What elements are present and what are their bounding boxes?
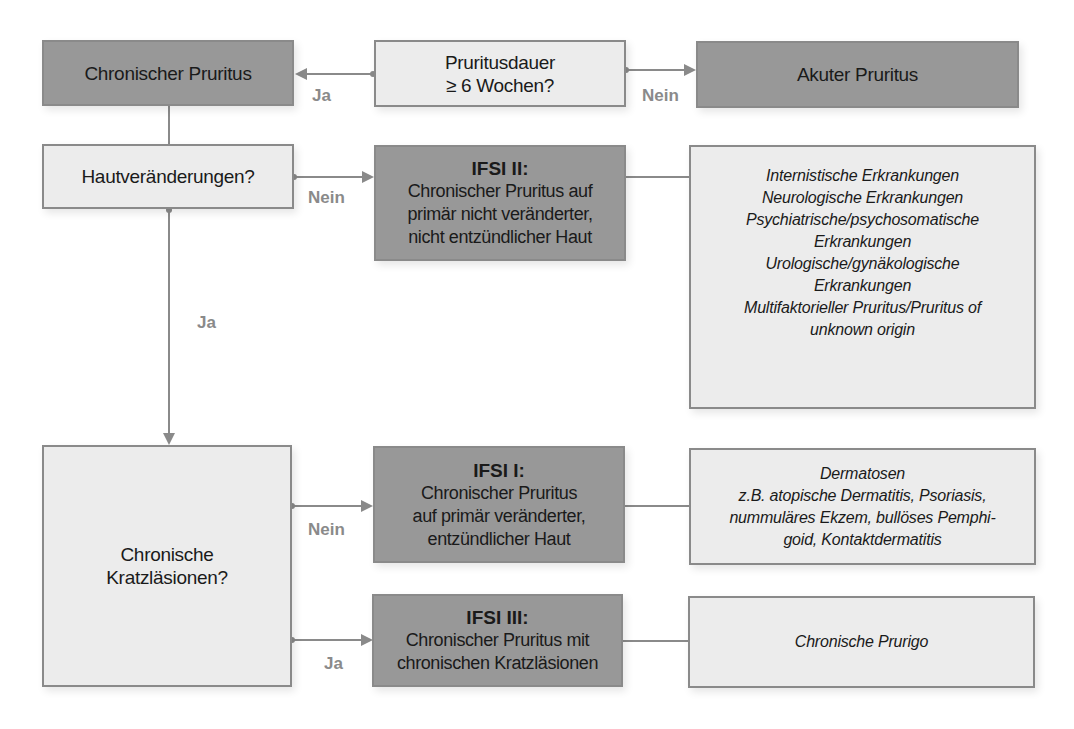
node-line: Chronische [120,543,213,566]
node-line: Chronischer Pruritus mit [406,629,589,652]
node-ifsi1-causes: Dermatosen z.B. atopische Dermatitis, Ps… [689,448,1036,565]
connector-scratch-ifsi1 [292,505,361,507]
node-line: Psychiatrische/psychosomatische [746,209,979,231]
node-line: Neurologische Erkrankungen [762,187,963,209]
node-label: Hautveränderungen? [81,165,254,188]
edge-label-nein: Nein [308,520,345,540]
node-chronic-pruritus: Chronischer Pruritus [42,40,294,106]
node-title: IFSI I: [473,459,525,482]
node-scratch-lesions: Chronische Kratzläsionen? [42,445,292,687]
node-line: Urologische/gynäkologische [765,253,959,275]
connector-scratch-ifsi3 [292,639,361,641]
connector-duration-chronic [306,73,374,75]
node-acute-pruritus: Akuter Pruritus [696,41,1019,108]
node-line: primär nicht veränderter, [407,203,592,226]
node-line: Erkrankungen [814,231,911,253]
node-line: Internistische Erkrankungen [766,165,959,187]
edge-label-nein: Nein [308,188,345,208]
node-line: Chronischer Pruritus auf [408,180,592,203]
connector-chronic-skin [168,106,170,144]
node-line: Pruritusdauer [445,51,555,74]
node-ifsi2-causes: Internistische Erkrankungen Neurologisch… [689,145,1036,409]
node-title: IFSI III: [466,606,528,629]
node-line: goid, Kontaktdermatitis [783,529,941,551]
node-line: Kratzläsionen? [106,566,228,589]
node-line: Erkrankungen [814,275,911,297]
node-line: Multifaktorieller Pruritus/Pruritus of [744,297,981,319]
connector-skin-scratch [168,209,170,433]
edge-label-ja: Ja [312,86,331,106]
node-line: z.B. atopische Dermatitis, Psoriasis, [739,485,987,507]
connector-ifsi3-causes [623,640,689,642]
node-line: entzündlicher Haut [428,528,571,551]
node-line: Chronischer Pruritus [421,482,577,505]
node-title: IFSI II: [472,157,529,180]
arrow-right-icon [361,500,373,512]
node-line: nummuläres Ekzem, bullöses Pemphi- [729,507,995,529]
node-skin-changes: Hautveränderungen? [42,144,294,209]
node-label: Chronische Prurigo [795,631,928,653]
connector-skin-ifsi2 [294,176,362,178]
node-ifsi2: IFSI II: Chronischer Pruritus auf primär… [374,145,626,261]
connector-duration-acute [626,69,684,71]
node-line: Dermatosen [820,463,905,485]
node-label: Chronischer Pruritus [84,62,251,85]
connector-ifsi1-causes [625,505,689,507]
node-pruritus-duration: Pruritusdauer ≥ 6 Wochen? [374,40,626,107]
edge-label-ja: Ja [197,313,216,333]
node-ifsi1: IFSI I: Chronischer Pruritus auf primär … [373,446,625,563]
connector-ifsi2-causes [626,176,689,178]
edge-label-ja: Ja [324,654,343,674]
arrow-right-icon [684,64,696,76]
node-line: chronischen Kratzläsionen [397,652,598,675]
node-ifsi3-causes: Chronische Prurigo [688,596,1035,688]
node-line: ≥ 6 Wochen? [446,74,554,97]
arrow-down-icon [163,433,175,445]
arrow-right-icon [362,171,374,183]
arrow-left-icon [295,68,307,80]
node-line: nicht entzündlicher Haut [408,226,592,249]
node-label: Akuter Pruritus [797,63,918,86]
edge-label-nein: Nein [642,86,679,106]
node-line: unknown origin [810,319,915,341]
node-ifsi3: IFSI III: Chronischer Pruritus mit chron… [372,594,623,687]
node-line: auf primär veränderter, [413,505,586,528]
